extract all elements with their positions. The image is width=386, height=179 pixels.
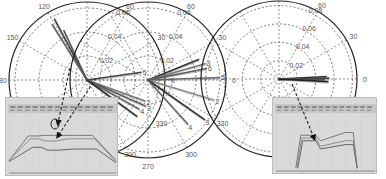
- inset-header-strip: [8, 104, 117, 113]
- angle-tick-label: 30: [158, 34, 166, 41]
- inset-header-text: [367, 110, 371, 112]
- inset-header-text: [353, 106, 358, 108]
- inset-header-text: [291, 106, 296, 108]
- inset-header-text: [93, 110, 98, 112]
- radial-tick-label: 0.06: [177, 9, 191, 16]
- angle-spoke: [279, 40, 347, 79]
- trace-label: 6: [208, 65, 212, 72]
- inset-header-text: [93, 106, 99, 108]
- angle-tick-label: 60: [318, 2, 326, 9]
- inset-header-text: [360, 106, 365, 108]
- trace-line: [64, 30, 87, 80]
- inset-header-text: [70, 110, 75, 112]
- inset-header-text: [10, 110, 15, 112]
- left-inset-chart: [5, 97, 118, 176]
- inset-series-lower: [9, 147, 116, 162]
- inset-header-text: [284, 110, 288, 112]
- inset-header-text: [25, 110, 30, 112]
- angle-tick-label: 60: [187, 3, 195, 10]
- inset-header-text: [48, 106, 54, 108]
- inset-header-text: [353, 110, 357, 112]
- radial-tick-label: 0.02: [99, 57, 113, 64]
- trace-label: 4: [140, 108, 144, 115]
- inset-header-text: [55, 110, 60, 112]
- inset-header-text: [108, 110, 113, 112]
- inset-header-text: [18, 106, 24, 108]
- inset-header-text: [108, 106, 114, 108]
- inset-header-text: [40, 106, 46, 108]
- angle-tick-label: 120: [38, 3, 50, 10]
- inset-header-text: [277, 110, 281, 112]
- inset-header-text: [298, 106, 303, 108]
- inset-header-strip: [275, 104, 376, 113]
- inset-header-text: [70, 106, 76, 108]
- inset-header-text: [85, 106, 91, 108]
- inset-header-text: [305, 110, 309, 112]
- angle-spoke: [211, 79, 279, 118]
- radial-tick-label: 0.06: [302, 25, 316, 32]
- angle-tick-label: 270: [142, 163, 154, 170]
- angle-tick-label: 150: [7, 34, 19, 41]
- radial-tick-label: 0.02: [160, 57, 174, 64]
- radial-tick-label: 0.04: [108, 33, 122, 40]
- trace-line: [87, 72, 142, 80]
- inset-header-text: [326, 110, 330, 112]
- inset-header-text: [100, 110, 105, 112]
- inset-header-text: [63, 106, 69, 108]
- inset-header-text: [48, 110, 53, 112]
- angle-spoke: [211, 40, 279, 79]
- inset-header-text: [367, 106, 372, 108]
- inset-header-text: [326, 106, 331, 108]
- inset-header-text: [346, 110, 350, 112]
- inset-header-text: [312, 110, 316, 112]
- inset-header-text: [33, 106, 39, 108]
- angle-spoke: [240, 11, 279, 79]
- inset-header-text: [18, 110, 23, 112]
- inset-header-text: [10, 106, 16, 108]
- inset-header-text: [63, 110, 68, 112]
- trace-line: [148, 80, 205, 120]
- inset-header-text: [298, 110, 302, 112]
- trace-label: 4: [188, 124, 192, 131]
- inset-header-text: [40, 110, 45, 112]
- inset-header-text: [55, 106, 61, 108]
- inset-header-text: [284, 106, 289, 108]
- inset-header-text: [291, 110, 295, 112]
- inset-header-text: [33, 110, 38, 112]
- inset-header-text: [277, 106, 282, 108]
- inset-header-text: [319, 106, 324, 108]
- inset-header-text: [78, 106, 84, 108]
- inset-header-text: [332, 110, 336, 112]
- figure: 0.020.040.06901201501806030033030052340.…: [0, 0, 386, 179]
- trace-line-shadow: [52, 26, 87, 81]
- angle-tick-label: 180: [0, 77, 7, 84]
- angle-tick-label: 0: [232, 77, 236, 84]
- inset-header-text: [360, 110, 364, 112]
- right-inset-chart: [272, 97, 377, 174]
- inset-header-text: [332, 106, 337, 108]
- inset-header-text: [346, 106, 351, 108]
- angle-tick-label: 300: [185, 151, 197, 158]
- inset-header-text: [25, 106, 31, 108]
- inset-header-text: [312, 106, 317, 108]
- radial-tick-label: 0.04: [169, 33, 183, 40]
- angle-tick-label: 0: [363, 76, 367, 83]
- inset-header-text: [305, 106, 310, 108]
- inset-header-text: [319, 110, 323, 112]
- angle-spoke: [80, 41, 148, 80]
- inset-series-middle: [297, 138, 357, 168]
- inset-series-upper: [9, 135, 116, 160]
- trace-label: 2: [215, 98, 219, 105]
- inset-header-text: [339, 110, 343, 112]
- angle-tick-label: 30: [350, 33, 358, 40]
- inset-header-text: [100, 106, 106, 108]
- inset-header-text: [78, 110, 83, 112]
- trace-label: 3: [206, 119, 210, 126]
- radial-tick-label: 0.02: [289, 62, 303, 69]
- left-inset-svg: [6, 98, 119, 177]
- trace-label: 3: [147, 105, 151, 112]
- angle-spoke: [87, 12, 126, 80]
- right-inset-svg: [273, 98, 378, 175]
- inset-header-text: [85, 110, 90, 112]
- inset-header-text: [339, 106, 344, 108]
